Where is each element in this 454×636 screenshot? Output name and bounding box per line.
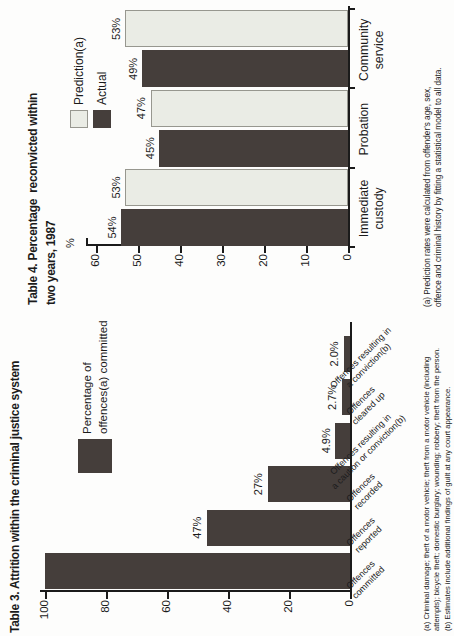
category-label: Communityservice	[357, 0, 386, 100]
table4-footnotes: (a) Prediction rates were calculated fro…	[423, 67, 444, 307]
y-tick	[222, 246, 224, 253]
y-tick-label: 50	[131, 254, 143, 290]
category-label-line: custody	[372, 158, 387, 258]
bar-value-label: 53%	[110, 4, 122, 54]
table4-footnote-line2: offence and criminal history by fitting …	[434, 67, 445, 307]
table4-footnote-line1: (a) Prediction rates were calculated fro…	[423, 67, 434, 307]
bar	[142, 50, 348, 87]
x-axis-line	[348, 6, 350, 246]
x-tick	[350, 167, 355, 169]
category-label-line: Community	[357, 0, 372, 100]
y-tick	[180, 246, 182, 253]
x-tick	[350, 246, 355, 248]
category-label-line: service	[372, 0, 387, 100]
bar	[125, 10, 348, 47]
x-tick	[350, 8, 355, 10]
bar-value-label: 53%	[110, 163, 122, 213]
y-tick-label: 20	[257, 254, 269, 290]
y-tick	[264, 246, 266, 253]
rotated-landscape-page: Table 3. Attrition within the criminal j…	[0, 0, 454, 636]
y-tick	[96, 246, 98, 253]
bar	[125, 169, 348, 206]
y-tick-label: 40	[173, 254, 185, 290]
table4-plot: 010203040506054%53%Immediatecustody45%47…	[0, 0, 454, 636]
y-tick-label: 30	[215, 254, 227, 290]
bar-value-label: 49%	[127, 44, 139, 94]
scanned-page-viewport: Table 3. Attrition within the criminal j…	[0, 0, 454, 636]
y-tick	[306, 246, 308, 253]
y-axis-cap	[86, 238, 88, 246]
bar	[121, 209, 348, 246]
x-tick	[350, 87, 355, 89]
y-tick-label: 10	[299, 254, 311, 290]
bar	[151, 90, 348, 127]
y-tick-label: 60	[89, 254, 101, 290]
y-tick-label: 0	[341, 254, 353, 290]
y-tick	[138, 246, 140, 253]
bar	[159, 130, 348, 167]
